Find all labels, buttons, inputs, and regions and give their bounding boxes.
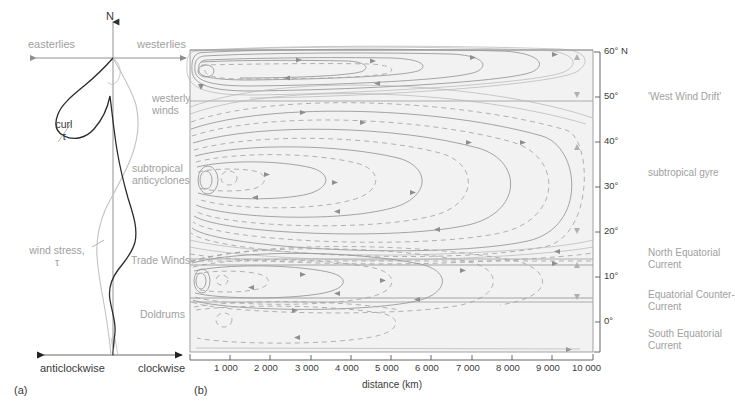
xtick-1: 1 000 <box>214 363 238 374</box>
ytick-40: 40° <box>604 136 618 147</box>
current-label-equatorial-counter: Equatorial Counter-Current <box>648 289 735 312</box>
current-label-west-wind-drift: 'West Wind Drift' <box>648 91 721 103</box>
xtick-5: 5 000 <box>375 363 399 374</box>
xtick-8: 8 000 <box>496 363 520 374</box>
xtick-9: 9 000 <box>536 363 560 374</box>
panel-b-x-axis <box>190 354 593 360</box>
ytick-30: 30° <box>604 181 618 192</box>
xtick-4: 4 000 <box>335 363 359 374</box>
ytick-0: 0° <box>604 316 613 327</box>
current-label-south-equatorial: South EquatorialCurrent <box>648 328 722 351</box>
ytick-50: 50° <box>604 91 618 102</box>
xtick-7: 7 000 <box>456 363 480 374</box>
panel-b-xlabel: distance (km) <box>362 379 422 391</box>
panel-b-caption: (b) <box>194 384 207 397</box>
xtick-2: 2 000 <box>254 363 278 374</box>
ytick-10: 10° <box>604 271 618 282</box>
current-label-subtropical-gyre: subtropical gyre <box>648 167 719 179</box>
current-label-north-equatorial: North EquatorialCurrent <box>648 247 720 270</box>
panel-b-y-axis <box>594 52 600 352</box>
ytick-60n: 60° N <box>604 46 628 57</box>
xtick-3: 3 000 <box>295 363 319 374</box>
ytick-20: 20° <box>604 226 618 237</box>
xtick-6: 6 000 <box>415 363 439 374</box>
xtick-10: 10 000 <box>572 363 601 374</box>
